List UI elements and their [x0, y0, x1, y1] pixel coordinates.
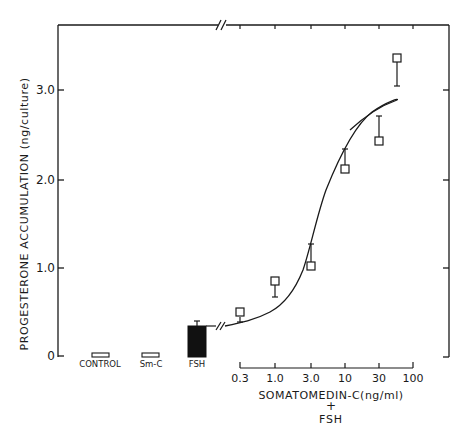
bar-labels: CONTROL Sm-C FSH — [79, 359, 205, 369]
x-axis-title: SOMATOMEDIN-C(ng/ml) + FSH — [258, 389, 403, 426]
y-tick-label: 1.0 — [36, 261, 55, 275]
y-tick-label: 3.0 — [36, 83, 55, 97]
bar-group — [92, 321, 206, 357]
bar-fsh-error — [194, 321, 200, 326]
x-axis-title-line2: FSH — [319, 413, 343, 426]
x-axis — [240, 362, 413, 368]
bar-fsh — [188, 326, 206, 357]
x-tick-label: 1.0 — [266, 372, 284, 385]
x-tick-label: 100 — [403, 372, 424, 385]
plot-frame — [58, 25, 449, 357]
data-point — [236, 308, 244, 316]
x-tick-label: 30 — [372, 372, 386, 385]
bar-label-smc: Sm-C — [140, 359, 163, 369]
fitted-curve-tail — [350, 100, 397, 130]
y-ticks-right — [443, 90, 449, 357]
y-ticks-left — [58, 90, 64, 356]
data-point — [393, 54, 401, 62]
bar-label-fsh: FSH — [189, 359, 206, 369]
x-axis-title-plus: + — [326, 399, 336, 413]
curve-axis-break-icon — [206, 322, 225, 330]
x-tick-labels: 0.3 1.0 3.0 10 30 100 — [231, 372, 423, 385]
data-point — [341, 165, 349, 173]
x-tick-label: 10 — [338, 372, 352, 385]
bar-label-control: CONTROL — [79, 359, 121, 369]
data-point — [375, 137, 383, 145]
y-tick-label: 2.0 — [36, 173, 55, 187]
fitted-curve — [225, 99, 397, 326]
data-point — [271, 277, 279, 285]
x-tick-label: 3.0 — [302, 372, 320, 385]
bar-control — [92, 353, 109, 357]
x-tick-label: 0.3 — [231, 372, 249, 385]
bar-smc — [142, 353, 159, 357]
data-point — [307, 262, 315, 270]
y-tick-label: 0 — [47, 349, 55, 363]
y-axis-title: PROGESTERONE ACCUMULATION (ng/culture) — [18, 77, 31, 350]
chart: 3.0 2.0 1.0 0 PROGESTERONE ACCUMULATION … — [0, 0, 468, 438]
data-points — [236, 54, 401, 322]
y-tick-labels: 3.0 2.0 1.0 0 — [36, 83, 55, 363]
